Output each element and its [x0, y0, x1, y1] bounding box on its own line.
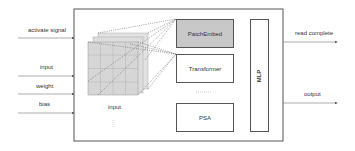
mlp-label: MLP — [256, 69, 262, 82]
psa-block: PSA — [176, 103, 234, 132]
input-label-input: input — [40, 64, 53, 70]
psa-label: PSA — [199, 115, 211, 121]
patch-embed-label: PatchEmbed — [188, 31, 222, 37]
input-label-activate-signal: activate signal — [28, 27, 66, 33]
input-label-weight: weight — [36, 83, 53, 89]
patch-embed-block: PatchEmbed — [176, 19, 234, 48]
stacked-input-grids — [88, 33, 148, 95]
input-label-bias: bias — [39, 101, 50, 107]
mlp-block: MLP — [250, 19, 269, 132]
output-label-read-complete: read complete — [295, 30, 333, 36]
grid-label-input: input — [108, 104, 121, 110]
output-label-output: output — [304, 91, 321, 97]
transformer-label: Transformer — [189, 66, 221, 72]
transformer-block: Transformer — [176, 54, 234, 83]
